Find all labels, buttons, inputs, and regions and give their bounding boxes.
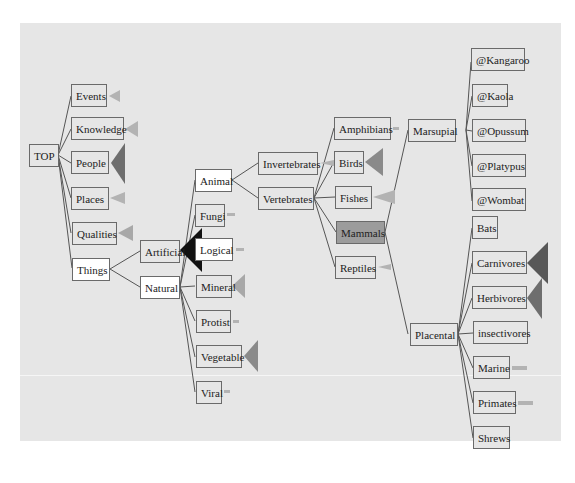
node-marsupial[interactable]: Marsupial	[408, 119, 456, 142]
herbivores-marker-icon	[527, 278, 542, 319]
node-events[interactable]: Events	[71, 84, 107, 107]
node-kaola[interactable]: @Kaola	[472, 84, 508, 107]
node-opussum[interactable]: @Opussum	[472, 119, 526, 142]
node-fungi[interactable]: Fungi	[195, 204, 225, 227]
viral-marker-icon	[224, 390, 230, 393]
node-birds[interactable]: Birds	[334, 151, 364, 174]
node-mineral[interactable]: Mineral	[196, 275, 232, 298]
node-wombat[interactable]: @Wombat	[472, 188, 526, 211]
fungi-marker-icon	[227, 213, 235, 216]
carnivores-marker-icon	[527, 242, 548, 284]
node-protist[interactable]: Protist	[196, 310, 231, 333]
node-mammals[interactable]: Mammals	[336, 221, 385, 244]
node-shrews[interactable]: Shrews	[473, 426, 510, 449]
reptiles-marker-icon	[378, 264, 391, 270]
birds-marker-icon	[365, 148, 383, 176]
node-invertebrates[interactable]: Invertebrates	[258, 152, 318, 175]
birds-connector-icon	[320, 160, 334, 166]
node-kangaroo[interactable]: @Kangaroo	[471, 48, 525, 71]
node-qualities[interactable]: Qualities	[72, 222, 117, 245]
node-top[interactable]: TOP	[29, 144, 59, 167]
node-bats[interactable]: Bats	[472, 216, 498, 239]
primates-marker-icon	[518, 401, 533, 405]
node-people[interactable]: People	[71, 151, 109, 174]
node-places[interactable]: Places	[71, 187, 109, 210]
node-viral[interactable]: Viral	[196, 381, 222, 404]
node-artificial[interactable]: Artificial	[140, 240, 180, 263]
events-marker-icon	[109, 90, 120, 102]
node-things[interactable]: Things	[72, 258, 110, 281]
people-marker-icon	[111, 143, 125, 184]
node-placental[interactable]: Placental	[410, 323, 458, 346]
qualities-marker-icon	[118, 225, 133, 241]
vegetable-marker-icon	[244, 340, 258, 372]
node-natural[interactable]: Natural	[140, 276, 180, 299]
protist-marker-icon	[233, 320, 239, 323]
node-insectivores[interactable]: insectivores	[473, 321, 528, 344]
node-amphibians[interactable]: Amphibians	[334, 117, 391, 140]
node-herbivores[interactable]: Herbivores	[472, 286, 527, 309]
node-animal[interactable]: Animal	[195, 169, 232, 192]
fishes-marker-icon	[373, 190, 395, 204]
node-fishes[interactable]: Fishes	[335, 186, 372, 209]
marine-marker-icon	[512, 366, 527, 370]
node-vertebrates[interactable]: Vertebrates	[258, 187, 314, 210]
node-carnivores[interactable]: Carnivores	[472, 251, 527, 274]
node-primates[interactable]: Primates	[473, 391, 516, 414]
node-platypus[interactable]: @Platypus	[472, 154, 526, 177]
node-knowledge[interactable]: Knowledge	[71, 117, 124, 140]
places-marker-icon	[110, 192, 125, 204]
logical-bar-icon	[236, 248, 244, 251]
node-logical[interactable]: Logical	[195, 238, 233, 261]
amphibians-marker-icon	[393, 127, 399, 130]
node-reptiles[interactable]: Reptiles	[335, 256, 376, 279]
node-vegetable[interactable]: Vegetable	[196, 345, 242, 368]
node-marine[interactable]: Marine	[473, 356, 510, 379]
